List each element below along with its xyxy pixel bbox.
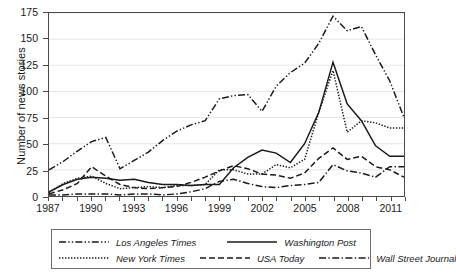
x-axis-tick-mark bbox=[348, 197, 349, 201]
legend-line-sample bbox=[58, 237, 110, 247]
y-axis-tick-label: 125 bbox=[20, 59, 38, 71]
x-axis-tick-mark bbox=[405, 197, 406, 201]
legend-label: Wall Street Journal bbox=[376, 253, 456, 264]
legend-entry-wall-street-journal[interactable]: Wall Street Journal bbox=[318, 253, 456, 264]
y-axis-tick-label: 50 bbox=[26, 138, 38, 150]
legend-label: Los Angeles Times bbox=[116, 237, 196, 248]
x-axis-tick-mark bbox=[262, 197, 263, 201]
x-axis-tick-label: 2002 bbox=[251, 202, 274, 214]
x-axis-tick-label: 1996 bbox=[165, 202, 188, 214]
x-axis-tick-mark bbox=[291, 197, 292, 201]
legend-label: USA Today bbox=[257, 253, 304, 264]
legend-line-sample bbox=[226, 237, 278, 247]
x-axis-tick-mark bbox=[334, 197, 335, 201]
legend-line-sample bbox=[199, 253, 251, 263]
x-axis-tick-label: 2011 bbox=[379, 202, 402, 214]
y-axis-tick-label: 150 bbox=[20, 32, 38, 44]
x-axis-tick-mark bbox=[319, 197, 320, 201]
series-line-washington-post bbox=[49, 62, 404, 192]
x-axis-tick-mark bbox=[119, 197, 120, 201]
x-axis-tick-mark bbox=[105, 197, 106, 201]
legend-entry-new-york-times[interactable]: New York Times bbox=[58, 253, 185, 264]
x-axis-tick-mark bbox=[134, 197, 135, 201]
legend-line-sample bbox=[318, 253, 370, 263]
x-axis-tick-mark bbox=[91, 197, 92, 201]
legend-row: Los Angeles TimesWashington Post bbox=[58, 234, 364, 250]
legend-entry-los-angeles-times[interactable]: Los Angeles Times bbox=[58, 237, 196, 248]
plot-area bbox=[48, 12, 405, 197]
x-axis-tick-mark bbox=[148, 197, 149, 201]
legend-line-sample bbox=[58, 253, 110, 263]
x-axis-tick-mark bbox=[391, 197, 392, 201]
x-axis-tick-mark bbox=[48, 197, 49, 201]
x-axis-tick-label: 1999 bbox=[208, 202, 231, 214]
y-axis-tick-group: 0255075100125150175 bbox=[0, 0, 48, 274]
x-axis-tick-mark bbox=[162, 197, 163, 201]
y-axis-tick-label: 25 bbox=[26, 165, 38, 177]
x-axis-tick-label: 1990 bbox=[79, 202, 102, 214]
x-axis-tick-mark bbox=[248, 197, 249, 201]
x-axis-tick-mark bbox=[276, 197, 277, 201]
x-axis-tick-mark bbox=[219, 197, 220, 201]
y-axis-tick-label: 100 bbox=[20, 85, 38, 97]
x-axis-tick-mark bbox=[234, 197, 235, 201]
legend-entry-usa-today[interactable]: USA Today bbox=[199, 253, 304, 264]
y-axis-tick-label: 75 bbox=[26, 112, 38, 124]
chart-legend: Los Angeles TimesWashington Post New Yor… bbox=[51, 229, 371, 269]
x-axis-tick-mark bbox=[362, 197, 363, 201]
x-axis-tick-mark bbox=[62, 197, 63, 201]
x-axis-tick-mark bbox=[77, 197, 78, 201]
x-axis-tick-mark bbox=[305, 197, 306, 201]
series-line-los-angeles-times bbox=[49, 16, 404, 170]
legend-entry-washington-post[interactable]: Washington Post bbox=[226, 237, 356, 248]
legend-label: New York Times bbox=[116, 253, 185, 264]
x-axis-tick-label: 1993 bbox=[122, 202, 145, 214]
x-axis-tick-mark bbox=[177, 197, 178, 201]
y-axis-tick-label: 175 bbox=[20, 6, 38, 18]
legend-row: New York TimesUSA TodayWall Street Journ… bbox=[58, 250, 364, 266]
x-axis-tick-mark bbox=[191, 197, 192, 201]
series-line-wall-street-journal bbox=[49, 165, 404, 195]
x-axis-tick-label: 2005 bbox=[293, 202, 316, 214]
x-axis-tick-label: 2008 bbox=[336, 202, 359, 214]
x-axis-tick-mark bbox=[376, 197, 377, 201]
x-axis-tick-mark bbox=[205, 197, 206, 201]
x-axis-tick-label: 1987 bbox=[36, 202, 59, 214]
legend-label: Washington Post bbox=[284, 237, 356, 248]
data-layer bbox=[49, 13, 404, 196]
